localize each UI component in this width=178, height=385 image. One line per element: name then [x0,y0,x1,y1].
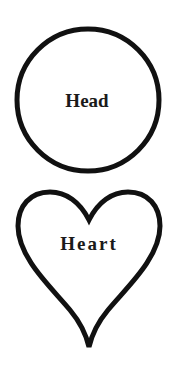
heart-label: Heart [60,233,117,254]
head-label: Head [65,90,109,111]
diagram-canvas: Head Heart [0,0,178,385]
heart-shape: Heart [18,192,160,347]
heart-outline [18,192,160,347]
head-shape: Head [17,29,159,171]
